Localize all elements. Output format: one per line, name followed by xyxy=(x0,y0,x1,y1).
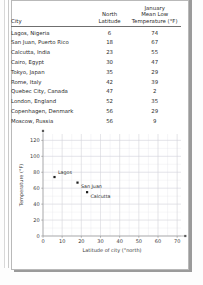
table-row: Tokyo, Japan3529 xyxy=(11,67,181,77)
data-point-marker xyxy=(53,176,55,178)
cell-mean-low-temperature: 47 xyxy=(128,57,181,67)
column-header-north-latitude: North Latitude xyxy=(91,5,128,26)
table-row: San Juan, Puerto Rico1867 xyxy=(11,38,181,48)
cell-city: Lagos, Nigeria xyxy=(11,26,91,38)
header-temperature-line3: Temperature (°F) xyxy=(128,18,181,24)
city-temperature-table: City North Latitude January Mean Low xyxy=(11,5,181,126)
header-city-label: City xyxy=(11,18,91,24)
x-tick-label: 10 xyxy=(59,238,65,244)
scatter-plot-container: 010203040506070020406080100120 LagosSan … xyxy=(11,128,189,263)
x-axis-title: Latitude of city (°north) xyxy=(82,247,141,254)
x-tick-label: 60 xyxy=(155,238,161,244)
cell-city: Cairo, Egypt xyxy=(11,57,91,67)
cell-mean-low-temperature: 67 xyxy=(128,38,181,48)
table-row: Lagos, Nigeria674 xyxy=(11,26,181,38)
cell-north-latitude: 56 xyxy=(91,116,128,126)
y-tick-label: 80 xyxy=(33,169,39,175)
cell-city: Copenhagen, Denmark xyxy=(11,106,91,116)
y-axis-end-cap xyxy=(42,130,44,132)
cell-north-latitude: 47 xyxy=(91,87,128,97)
cell-mean-low-temperature: 9 xyxy=(128,116,181,126)
table-row: Calcutta, India2355 xyxy=(11,47,181,57)
cell-north-latitude: 35 xyxy=(91,67,128,77)
x-tick-label: 0 xyxy=(41,238,44,244)
chart-axes xyxy=(41,130,186,238)
x-tick-label: 20 xyxy=(78,238,84,244)
cell-mean-low-temperature: 74 xyxy=(128,26,181,38)
table-header: City North Latitude January Mean Low xyxy=(11,5,181,26)
table-row: Copenhagen, Denmark5629 xyxy=(11,106,181,116)
x-tick-label: 40 xyxy=(116,238,122,244)
cell-city: San Juan, Puerto Rico xyxy=(11,38,91,48)
cell-north-latitude: 6 xyxy=(91,26,128,38)
data-point-label: San Juan xyxy=(81,184,102,189)
document-page: City North Latitude January Mean Low xyxy=(0,0,203,285)
data-point-marker xyxy=(76,182,78,184)
table-row: London, England5235 xyxy=(11,96,181,106)
cell-north-latitude: 56 xyxy=(91,106,128,116)
table-row: Rome, Italy4239 xyxy=(11,77,181,87)
header-latitude-line2: Latitude xyxy=(91,18,128,24)
page-edge xyxy=(4,0,9,268)
cell-north-latitude: 30 xyxy=(91,57,128,67)
y-tick-label: 60 xyxy=(33,185,39,191)
cell-city: Tokyo, Japan xyxy=(11,67,91,77)
data-table-container: City North Latitude January Mean Low xyxy=(11,5,181,126)
cell-city: London, England xyxy=(11,96,91,106)
y-tick-label: 20 xyxy=(33,217,39,223)
table-header-row: City North Latitude January Mean Low xyxy=(11,5,181,26)
cell-north-latitude: 52 xyxy=(91,96,128,106)
cell-mean-low-temperature: 39 xyxy=(128,77,181,87)
column-header-city: City xyxy=(11,5,91,26)
x-tick-label: 70 xyxy=(174,238,180,244)
data-point-label: Calcutta xyxy=(90,194,110,199)
cell-north-latitude: 23 xyxy=(91,47,128,57)
table-row: Moscow, Russia569 xyxy=(11,116,181,126)
y-tick-label: 120 xyxy=(30,137,40,143)
x-tick-label: 30 xyxy=(97,238,103,244)
cell-mean-low-temperature: 35 xyxy=(128,96,181,106)
x-axis-end-cap xyxy=(184,235,186,237)
chart-major-gridlines xyxy=(43,134,181,236)
column-header-january-mean-low-temperature: January Mean Low Temperature (°F) xyxy=(128,5,181,26)
cell-city: Calcutta, India xyxy=(11,47,91,57)
chart-minor-gridlines xyxy=(43,134,181,236)
cell-north-latitude: 42 xyxy=(91,77,128,87)
cell-city: Moscow, Russia xyxy=(11,116,91,126)
cell-city: Quebec City, Canada xyxy=(11,87,91,97)
cell-mean-low-temperature: 2 xyxy=(128,87,181,97)
data-point-marker xyxy=(86,191,88,193)
table-row: Quebec City, Canada472 xyxy=(11,87,181,97)
y-tick-label: 40 xyxy=(33,201,39,207)
table-row: Cairo, Egypt3047 xyxy=(11,57,181,67)
cell-mean-low-temperature: 29 xyxy=(128,106,181,116)
table-body: Lagos, Nigeria674San Juan, Puerto Rico18… xyxy=(11,26,181,126)
y-tick-label: 0 xyxy=(36,233,39,239)
cell-city: Rome, Italy xyxy=(11,77,91,87)
x-tick-label: 50 xyxy=(136,238,142,244)
cell-mean-low-temperature: 29 xyxy=(128,67,181,77)
latitude-vs-temperature-scatter-plot: 010203040506070020406080100120 LagosSan … xyxy=(11,128,189,263)
y-tick-label: 100 xyxy=(30,153,40,159)
cell-mean-low-temperature: 55 xyxy=(128,47,181,57)
data-point-label: Lagos xyxy=(58,170,73,175)
y-axis-title: Temperature (°F) xyxy=(18,164,25,208)
cell-north-latitude: 18 xyxy=(91,38,128,48)
